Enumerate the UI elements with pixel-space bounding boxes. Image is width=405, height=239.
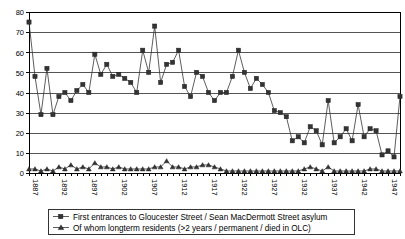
data-point-square (57, 94, 61, 98)
data-point-square (224, 90, 228, 94)
data-point-triangle (164, 159, 169, 163)
x-tick-label-1917: 1917 (210, 179, 219, 196)
data-point-square (117, 72, 121, 76)
data-point-square (230, 74, 234, 78)
data-point-square (290, 139, 294, 143)
data-point-square (254, 76, 258, 80)
data-point-square (75, 88, 79, 92)
y-tick-label-70: 70 (16, 28, 24, 37)
data-point-square (296, 135, 300, 139)
data-point-square (398, 94, 402, 98)
data-point-square (356, 102, 360, 106)
data-point-triangle (116, 165, 121, 169)
y-tick-label-50: 50 (16, 69, 24, 78)
legend-label-0: First entrances to Gloucester Street / S… (73, 213, 328, 222)
data-point-triangle (57, 165, 62, 169)
y-tick-label-60: 60 (16, 49, 24, 58)
x-tick-label-1922: 1922 (240, 179, 249, 196)
data-point-square (159, 80, 163, 84)
data-point-square (308, 125, 312, 129)
data-point-square (129, 80, 133, 84)
data-point-square (206, 90, 210, 94)
data-point-square (314, 129, 318, 133)
data-point-square (194, 70, 198, 74)
data-point-triangle (45, 167, 50, 171)
y-tick-label-80: 80 (16, 8, 24, 17)
data-point-square (344, 127, 348, 131)
line-chart: 0102030405060708018871892189719021907191… (0, 0, 405, 239)
x-tick-label-1927: 1927 (270, 179, 279, 196)
data-point-square (374, 129, 378, 133)
data-point-square (212, 98, 216, 102)
data-point-square (27, 20, 31, 24)
x-tick-label-1902: 1902 (120, 179, 129, 196)
data-point-square (45, 66, 49, 70)
data-point-square (200, 74, 204, 78)
data-point-square (99, 72, 103, 76)
data-point-square (153, 24, 157, 28)
data-point-triangle (92, 161, 97, 165)
data-point-square (147, 70, 151, 74)
x-tick-label-1942: 1942 (360, 179, 369, 196)
y-tick-label-40: 40 (16, 89, 24, 98)
data-point-square (218, 90, 222, 94)
x-tick-label-1887: 1887 (31, 179, 40, 196)
x-tick-label-1947: 1947 (390, 179, 399, 196)
legend-marker-square (59, 214, 63, 218)
data-point-square (33, 74, 37, 78)
y-tick-label-10: 10 (16, 149, 24, 158)
x-tick-label-1897: 1897 (90, 179, 99, 196)
y-tick-label-20: 20 (16, 129, 24, 138)
data-point-square (392, 155, 396, 159)
data-point-triangle (68, 163, 73, 167)
series-line-0 (29, 22, 400, 157)
data-point-square (350, 139, 354, 143)
x-tick-label-1912: 1912 (180, 179, 189, 196)
y-tick-label-30: 30 (16, 109, 24, 118)
data-point-square (284, 115, 288, 119)
data-point-square (111, 74, 115, 78)
data-point-square (176, 48, 180, 52)
x-tick-label-1937: 1937 (330, 179, 339, 196)
data-point-square (368, 127, 372, 131)
data-point-square (123, 76, 127, 80)
data-point-square (87, 90, 91, 94)
data-point-square (69, 98, 73, 102)
data-point-triangle (308, 165, 313, 169)
data-point-square (39, 113, 43, 117)
data-point-square (260, 82, 264, 86)
data-point-square (326, 98, 330, 102)
x-tick-label-1907: 1907 (150, 179, 159, 196)
data-point-square (338, 135, 342, 139)
data-point-square (278, 111, 282, 115)
data-point-square (165, 62, 169, 66)
data-point-square (272, 109, 276, 113)
data-point-square (386, 149, 390, 153)
data-point-square (188, 94, 192, 98)
data-point-square (320, 143, 324, 147)
x-tick-label-1932: 1932 (300, 179, 309, 196)
legend-label-1: Of whom longterm residents (>2 years / p… (73, 224, 311, 233)
data-point-square (266, 90, 270, 94)
data-point-square (93, 52, 97, 56)
data-point-square (51, 113, 55, 117)
data-point-square (302, 141, 306, 145)
data-point-square (362, 135, 366, 139)
data-point-square (182, 84, 186, 88)
data-point-square (171, 60, 175, 64)
data-point-square (135, 90, 139, 94)
data-point-square (236, 48, 240, 52)
data-point-triangle (326, 165, 331, 169)
data-point-square (105, 62, 109, 66)
data-point-square (81, 82, 85, 86)
data-point-square (248, 86, 252, 90)
x-tick-label-1892: 1892 (60, 179, 69, 196)
chart-container: 0102030405060708018871892189719021907191… (0, 0, 405, 239)
data-point-square (332, 141, 336, 145)
data-point-square (141, 48, 145, 52)
data-point-triangle (80, 165, 85, 169)
data-point-square (63, 90, 67, 94)
y-tick-label-0: 0 (20, 169, 24, 178)
data-point-square (242, 70, 246, 74)
data-point-square (380, 153, 384, 157)
